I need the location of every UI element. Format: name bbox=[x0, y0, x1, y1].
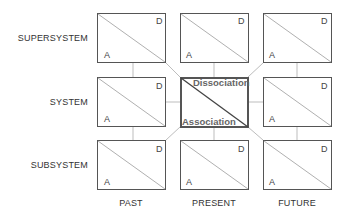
cell-a: A bbox=[186, 50, 192, 60]
cell-d: D bbox=[321, 144, 328, 154]
cell-d: D bbox=[156, 144, 163, 154]
col-label-past: PAST bbox=[96, 198, 166, 208]
center-dissociation-label: Dissociation bbox=[193, 77, 250, 88]
cell-a: A bbox=[104, 50, 110, 60]
cell-a: A bbox=[269, 114, 275, 124]
cell-a: A bbox=[186, 177, 192, 187]
cell-d: D bbox=[321, 16, 328, 26]
cell-d: D bbox=[238, 16, 245, 26]
cell-d: D bbox=[238, 144, 245, 154]
cell-d: D bbox=[156, 16, 163, 26]
col-label-future: FUTURE bbox=[262, 198, 332, 208]
cell-a: A bbox=[104, 177, 110, 187]
row-label-system: SYSTEM bbox=[0, 97, 88, 107]
col-label-present: PRESENT bbox=[179, 198, 249, 208]
cell-a: A bbox=[269, 177, 275, 187]
center-association-label: Association bbox=[182, 116, 236, 127]
cell-d: D bbox=[321, 81, 328, 91]
cell-a: A bbox=[269, 50, 275, 60]
cell-a: A bbox=[104, 114, 110, 124]
system-operator-diagram: SUPERSYSTEM SYSTEM SUBSYSTEM PAST PRESEN… bbox=[0, 0, 345, 218]
cell-d: D bbox=[156, 81, 163, 91]
row-label-supersystem: SUPERSYSTEM bbox=[0, 33, 88, 43]
row-label-subsystem: SUBSYSTEM bbox=[0, 160, 88, 170]
